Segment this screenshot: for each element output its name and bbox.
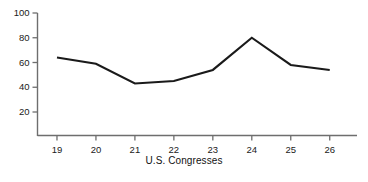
x-axis-tick-label: 23 [199,145,227,155]
x-axis-tick-label: 19 [43,145,71,155]
x-axis-tick-label: 25 [277,145,305,155]
x-axis-ticks [57,136,330,141]
x-axis-tick-label: 24 [238,145,266,155]
data-series-line [57,38,330,84]
y-axis-ticks [33,13,38,112]
y-axis-tick-label: 20 [19,107,30,117]
y-axis-tick-label: 40 [19,82,30,92]
x-axis-tick-label: 20 [82,145,110,155]
y-axis-tick-label: 80 [19,33,30,43]
line-chart: 20406080100 1920212223242526 U.S. Congre… [0,0,368,182]
y-axis-tick-label: 100 [14,8,30,18]
x-axis-title: U.S. Congresses [0,155,368,166]
x-axis-tick-label: 22 [160,145,188,155]
x-axis-tick-label: 21 [121,145,149,155]
y-axis-tick-label: 60 [19,58,30,68]
x-axis-tick-label: 26 [316,145,344,155]
